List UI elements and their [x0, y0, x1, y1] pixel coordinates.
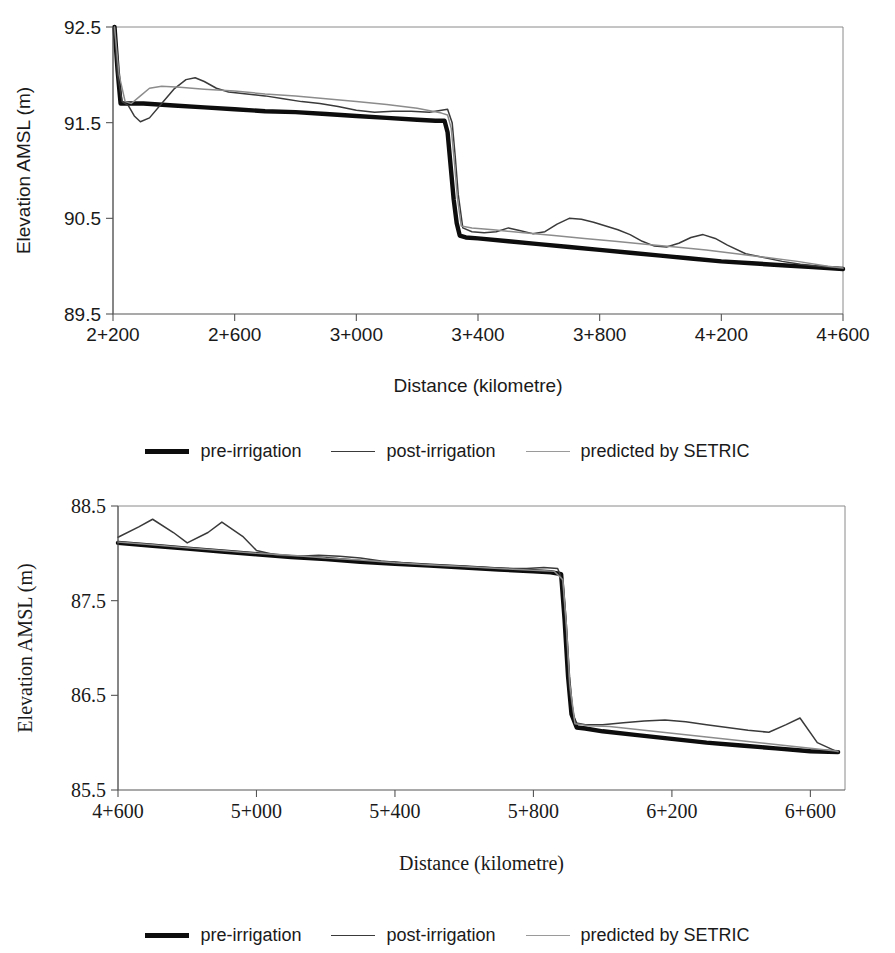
y-tick-label: 89.5	[64, 304, 101, 325]
legend-item-predicted-setric: predicted by SETRIC	[526, 441, 750, 462]
axis-lines	[113, 27, 843, 314]
legend-line-icon-predicted-setric	[526, 451, 570, 452]
x-tick-label: 4+600	[816, 324, 869, 345]
y-tick-label: 88.5	[71, 495, 106, 517]
plot-frame	[118, 506, 845, 790]
chart-top: 2+2002+6003+0003+4003+8004+2004+60089.59…	[0, 0, 895, 480]
y-axis-title: Elevation AMSL (m)	[13, 87, 34, 254]
legend-item-post-irrigation: post-irrigation	[331, 441, 495, 462]
legend-label-pre-irrigation: pre-irrigation	[200, 441, 301, 462]
axis-lines	[118, 506, 845, 790]
legend-bottom: pre-irrigation post-irrigation predicted…	[0, 925, 895, 946]
legend-label-post-irrigation: post-irrigation	[386, 441, 495, 462]
y-tick-label: 91.5	[64, 113, 101, 134]
figure-page: 2+2002+6003+0003+4003+8004+2004+60089.59…	[0, 0, 895, 953]
legend-item-pre-irrigation: pre-irrigation	[145, 925, 301, 946]
y-tick-label: 86.5	[71, 684, 106, 706]
x-tick-label: 5+400	[369, 800, 420, 822]
legend-item-predicted-setric: predicted by SETRIC	[526, 925, 750, 946]
chart-bottom-canvas: 4+6005+0005+4005+8006+2006+60085.586.587…	[0, 480, 895, 910]
legend-item-pre-irrigation: pre-irrigation	[145, 441, 301, 462]
plot-frame	[113, 27, 843, 314]
legend-line-icon-pre-irrigation	[145, 933, 189, 938]
x-tick-label: 6+200	[646, 800, 697, 822]
chart-bottom: 4+6005+0005+4005+8006+2006+60085.586.587…	[0, 480, 895, 953]
y-axis-title: Elevation AMSL (m)	[14, 563, 37, 732]
x-tick-label: 5+000	[231, 800, 282, 822]
x-tick-label: 3+000	[330, 324, 383, 345]
series-line-post	[115, 27, 843, 268]
y-tick-label: 90.5	[64, 208, 101, 229]
y-tick-label: 87.5	[71, 590, 106, 612]
x-tick-label: 6+600	[785, 800, 836, 822]
legend-line-icon-pre-irrigation	[145, 449, 189, 454]
x-axis-title: Distance (kilometre)	[399, 852, 564, 875]
x-tick-label: 3+400	[451, 324, 504, 345]
x-tick-label: 3+800	[573, 324, 626, 345]
y-tick-label: 85.5	[71, 779, 106, 801]
legend-label-post-irrigation: post-irrigation	[386, 925, 495, 946]
series-line-setric	[118, 542, 838, 751]
legend-line-icon-post-irrigation	[331, 935, 375, 936]
x-tick-label: 4+600	[92, 800, 143, 822]
legend-top: pre-irrigation post-irrigation predicted…	[0, 441, 895, 462]
y-tick-label: 92.5	[64, 17, 101, 38]
x-tick-label: 4+200	[695, 324, 748, 345]
legend-line-icon-post-irrigation	[331, 451, 375, 452]
x-axis-title: Distance (kilometre)	[394, 375, 563, 396]
legend-label-predicted-setric: predicted by SETRIC	[581, 925, 750, 946]
chart-top-canvas: 2+2002+6003+0003+4003+8004+2004+60089.59…	[0, 0, 895, 440]
legend-label-predicted-setric: predicted by SETRIC	[581, 441, 750, 462]
legend-item-post-irrigation: post-irrigation	[331, 925, 495, 946]
series-line-post	[118, 519, 838, 752]
legend-label-pre-irrigation: pre-irrigation	[200, 925, 301, 946]
legend-line-icon-predicted-setric	[526, 935, 570, 936]
x-tick-label: 2+200	[86, 324, 139, 345]
x-tick-label: 5+800	[508, 800, 559, 822]
series-line-pre	[118, 543, 838, 752]
x-tick-label: 2+600	[208, 324, 261, 345]
